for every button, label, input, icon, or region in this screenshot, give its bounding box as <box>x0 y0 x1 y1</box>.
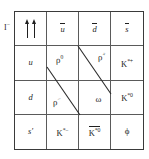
cell-s-antiquark: s <box>111 12 143 46</box>
rho-zero-label: ρ0 <box>56 54 64 66</box>
k-star-minus-label: K*− <box>57 127 69 138</box>
cell-rho-minus: ρ− <box>47 81 79 115</box>
k-star-plus-label: K*+ <box>121 58 133 69</box>
d-antiquark-label: d <box>92 23 96 33</box>
cell-rho-zero: ρ0 <box>47 46 79 80</box>
cell-rho-plus: ρ+ <box>79 46 111 80</box>
cell-k-star-plus: K*+ <box>111 46 143 80</box>
up-arrow-icon-1 <box>26 19 28 38</box>
s-antiquark-label: s <box>125 23 128 33</box>
d-quark-label: d <box>28 93 32 102</box>
s-prime-quark-label: s′ <box>28 127 33 136</box>
rho-minus-label: ρ− <box>53 96 61 108</box>
k-star-plus-superscript: *+ <box>127 58 133 64</box>
phi-label: ϕ <box>125 127 130 136</box>
cell-d-quark: d <box>15 81 47 115</box>
rho-plus-superscript: + <box>102 51 105 57</box>
up-arrow-icon-2 <box>33 19 35 38</box>
k-star-minus-superscript: *− <box>63 127 69 133</box>
k-star-zero-bar-label: K*0 <box>89 126 101 138</box>
spin-arrows-icon <box>26 19 35 38</box>
nonet-grid: u d s u ρ0 ρ+ K*+ d ρ− ω K*0 <box>14 11 144 150</box>
isospin-superscript: − <box>7 21 10 27</box>
k-star-zero-superscript: *0 <box>127 92 132 98</box>
isospin-row-label: I− <box>1 22 13 32</box>
rho-plus-label: ρ+ <box>98 51 106 63</box>
cell-k-star-zero-bar: K*0 <box>79 115 111 149</box>
cell-k-star-zero: K*0 <box>111 81 143 115</box>
k-star-zero-bar-superscript: *0 <box>95 127 100 133</box>
cell-omega: ω <box>79 81 111 115</box>
cell-s-prime-quark: s′ <box>15 115 47 149</box>
cell-d-antiquark: d <box>79 12 111 46</box>
u-quark-label: u <box>28 58 32 67</box>
u-antiquark-label: u <box>60 23 64 33</box>
figure-root: I− u d s u ρ0 <box>0 0 149 159</box>
k-star-zero-label: K*0 <box>121 92 133 103</box>
rho-minus-superscript: − <box>57 96 60 102</box>
omega-label: ω <box>96 95 102 104</box>
cell-u-antiquark: u <box>47 12 79 46</box>
cell-k-star-minus: K*− <box>47 115 79 149</box>
cell-phi: ϕ <box>111 115 143 149</box>
cell-spin-arrows <box>15 12 47 46</box>
cell-u-quark: u <box>15 46 47 80</box>
rho-zero-superscript: 0 <box>60 54 63 60</box>
